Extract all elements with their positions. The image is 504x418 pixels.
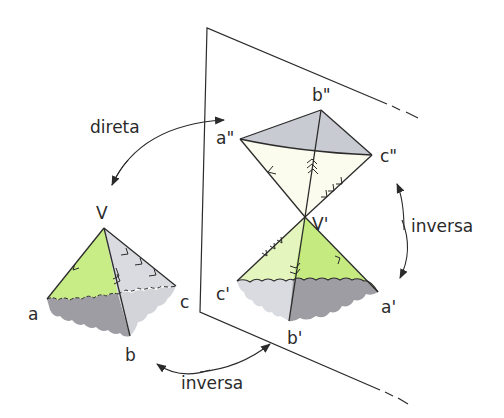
label-direta: direta (90, 117, 140, 137)
label-a: a (28, 304, 38, 324)
label-b-double: b" (312, 85, 331, 105)
label-c: c (180, 292, 189, 312)
base-shadow-light-lower (237, 279, 293, 321)
mirror-plane (200, 28, 418, 404)
label-c-prime: c' (216, 284, 230, 304)
label-inversa-bottom: inversa (181, 373, 243, 393)
arrow-inversa-bottom (157, 344, 270, 374)
label-inversa-right: inversa (411, 216, 473, 236)
upper-reflected-pyramid (240, 110, 372, 217)
arrow-inversa-right (397, 184, 408, 278)
label-V: V (96, 203, 108, 223)
label-b-prime: b' (287, 328, 302, 348)
original-pyramid (47, 228, 176, 337)
label-a-prime: a' (381, 297, 396, 317)
pyramid-reflection-diagram: direta inversa inversa V a b c V' a' b' … (0, 0, 504, 418)
label-b: b (125, 345, 136, 365)
label-a-double: a" (216, 128, 234, 148)
label-c-double: c" (380, 146, 397, 166)
base-shadow-dark-lower (289, 278, 378, 321)
label-V-prime: V' (312, 214, 328, 234)
base-shadow-dark (47, 293, 130, 336)
lower-reflected-pyramid (237, 217, 378, 321)
